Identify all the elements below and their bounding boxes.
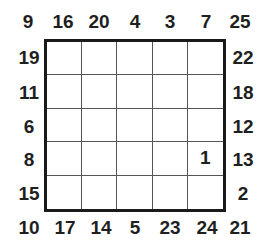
grid-cell-r1c3[interactable]	[117, 42, 152, 75]
left-clue-row-4: 8	[12, 150, 46, 170]
corner-clue-top-left: 9	[11, 12, 45, 32]
grid-cell-r5c1[interactable]	[47, 176, 82, 209]
grid-cell-r5c2[interactable]	[82, 176, 117, 209]
grid-cell-r1c2[interactable]	[82, 42, 117, 75]
grid-cell-r2c3[interactable]	[117, 75, 152, 108]
bottom-clue-col-5: 24	[190, 218, 224, 238]
grid-cell-r5c4[interactable]	[153, 176, 188, 209]
grid-cell-r3c1[interactable]	[47, 109, 82, 142]
grid-cell-r4c3[interactable]	[117, 142, 152, 175]
bottom-clue-col-3: 5	[118, 218, 152, 238]
grid-cell-r2c5[interactable]	[188, 75, 223, 108]
top-clue-col-5: 7	[189, 12, 223, 32]
grid-cell-r2c2[interactable]	[82, 75, 117, 108]
top-clue-col-3: 4	[118, 12, 152, 32]
puzzle-grid: 1	[44, 39, 226, 212]
grid-cell-r3c2[interactable]	[82, 109, 117, 142]
grid-cell-r3c5[interactable]	[188, 109, 223, 142]
grid-cell-r3c3[interactable]	[117, 109, 152, 142]
right-clue-row-2: 18	[226, 83, 260, 103]
right-clue-row-5: 2	[226, 184, 260, 204]
right-clue-row-1: 22	[226, 48, 260, 68]
grid-cell-r1c4[interactable]	[153, 42, 188, 75]
grid-cell-r2c1[interactable]	[47, 75, 82, 108]
right-clue-row-4: 13	[226, 150, 260, 170]
grid-cell-r4c5[interactable]: 1	[188, 142, 223, 175]
grid-cell-r3c4[interactable]	[153, 109, 188, 142]
grid-cell-r2c4[interactable]	[153, 75, 188, 108]
left-clue-row-3: 6	[12, 117, 46, 137]
top-clue-col-1: 16	[46, 12, 80, 32]
corner-clue-bottom-left: 10	[12, 218, 46, 238]
corner-clue-top-right: 25	[223, 12, 257, 32]
grid-cell-r5c5[interactable]	[188, 176, 223, 209]
grid-cell-r4c4[interactable]	[153, 142, 188, 175]
grid-cell-r4c1[interactable]	[47, 142, 82, 175]
left-clue-row-2: 11	[12, 83, 46, 103]
corner-clue-bottom-right: 21	[223, 218, 257, 238]
grid-cell-r5c3[interactable]	[117, 176, 152, 209]
bottom-clue-col-4: 23	[153, 218, 187, 238]
top-clue-col-4: 3	[153, 12, 187, 32]
grid-cell-r1c1[interactable]	[47, 42, 82, 75]
top-clue-col-2: 20	[82, 12, 116, 32]
bottom-clue-col-1: 17	[48, 218, 82, 238]
grid-cell-r4c2[interactable]	[82, 142, 117, 175]
left-clue-row-5: 15	[12, 184, 46, 204]
grid-cell-r1c5[interactable]	[188, 42, 223, 75]
bottom-clue-col-2: 14	[84, 218, 118, 238]
right-clue-row-3: 12	[226, 117, 260, 137]
left-clue-row-1: 19	[12, 48, 46, 68]
